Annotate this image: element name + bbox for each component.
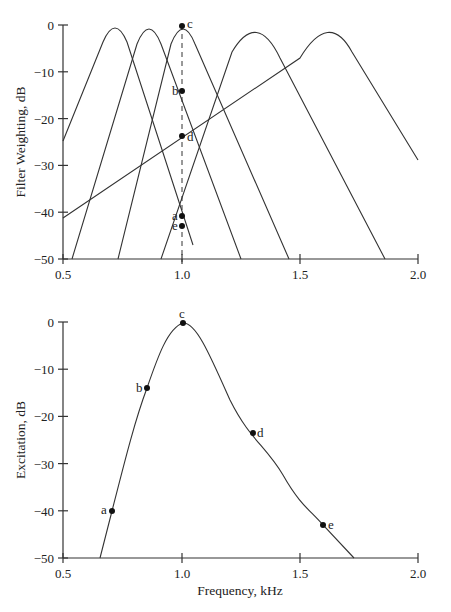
top-chart: 0 −10 −20 −30 −40 −50 0.5 1.0 1.5 2.0 Fi… [13, 16, 426, 282]
bottom-ytick-40: −40 [34, 504, 54, 519]
bottom-point-b [144, 385, 150, 391]
bottom-label-d: d [257, 425, 264, 440]
top-point-d [179, 133, 185, 139]
bottom-point-a [109, 508, 115, 514]
filter-curve-4 [161, 32, 385, 259]
bottom-label-a: a [101, 502, 107, 517]
top-xtick-0.5: 0.5 [55, 267, 71, 282]
top-ytick-50: −50 [34, 252, 54, 267]
bottom-label-e: e [328, 517, 334, 532]
bottom-ytick-0: 0 [48, 315, 55, 330]
bottom-ytick-10: −10 [34, 362, 54, 377]
top-point-a [179, 213, 185, 219]
bottom-points: a b c d e [101, 306, 334, 532]
top-ytick-30: −30 [34, 158, 54, 173]
top-label-e: e [172, 218, 178, 233]
top-ytick-10: −10 [34, 65, 54, 80]
filter-curve-3 [118, 29, 289, 259]
figure: 0 −10 −20 −30 −40 −50 0.5 1.0 1.5 2.0 Fi… [0, 0, 451, 612]
x-axis-title: Frequency, kHz [197, 583, 282, 598]
bottom-chart: 0 −10 −20 −30 −40 −50 0.5 1.0 1.5 2.0 Ex… [13, 306, 426, 598]
bottom-xtick-1.0: 1.0 [174, 566, 190, 581]
filter-curve-2 [72, 29, 241, 259]
filter-curve-5 [63, 32, 418, 218]
top-ytick-20: −20 [34, 112, 54, 127]
bottom-point-d [250, 430, 256, 436]
top-xtick-2.0: 2.0 [410, 267, 426, 282]
top-xtick-1.5: 1.5 [292, 267, 308, 282]
filter-curves [63, 28, 418, 259]
bottom-ytick-20: −20 [34, 409, 54, 424]
bottom-point-e [320, 522, 326, 528]
bottom-y-axis-title: Excitation, dB [13, 401, 28, 479]
bottom-ytick-30: −30 [34, 457, 54, 472]
top-point-c [179, 23, 185, 29]
bottom-ytick-50: −50 [34, 551, 54, 566]
bottom-label-c: c [179, 306, 185, 321]
bottom-xtick-2.0: 2.0 [410, 566, 426, 581]
top-ytick-40: −40 [34, 205, 54, 220]
top-point-e [179, 223, 185, 229]
top-y-axis-title: Filter Weighting, dB [13, 87, 28, 198]
bottom-label-b: b [136, 380, 143, 395]
top-ytick-0: 0 [48, 18, 55, 33]
bottom-xtick-1.5: 1.5 [292, 566, 308, 581]
top-point-b [179, 88, 185, 94]
top-label-d: d [187, 129, 194, 144]
top-label-b: b [172, 83, 179, 98]
bottom-xtick-0.5: 0.5 [55, 566, 71, 581]
top-xtick-1.0: 1.0 [174, 267, 190, 282]
excitation-curve [100, 323, 354, 558]
top-label-c: c [187, 16, 193, 31]
